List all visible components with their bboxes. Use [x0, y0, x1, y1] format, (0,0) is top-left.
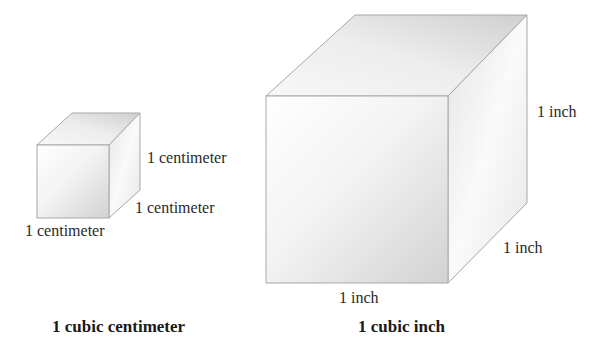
small-cube: [37, 113, 140, 218]
large-cube-front-face: [266, 96, 448, 283]
large-cube-height-label: 1 inch: [537, 104, 577, 120]
small-cube-caption: 1 cubic centimeter: [52, 318, 185, 335]
large-cube-caption: 1 cubic inch: [358, 318, 445, 335]
small-cube-height-label: 1 centimeter: [147, 150, 227, 166]
large-cube-depth-label: 1 inch: [503, 240, 543, 256]
small-cube-width-label: 1 centimeter: [25, 223, 105, 239]
large-cube: [266, 15, 527, 283]
small-cube-front-face: [37, 145, 109, 218]
large-cube-width-label: 1 inch: [339, 290, 379, 306]
cube-volume-diagram: 1 centimeter 1 centimeter 1 centimeter 1…: [0, 0, 593, 343]
small-cube-depth-label: 1 centimeter: [135, 200, 215, 216]
cubes-illustration: [0, 0, 593, 343]
